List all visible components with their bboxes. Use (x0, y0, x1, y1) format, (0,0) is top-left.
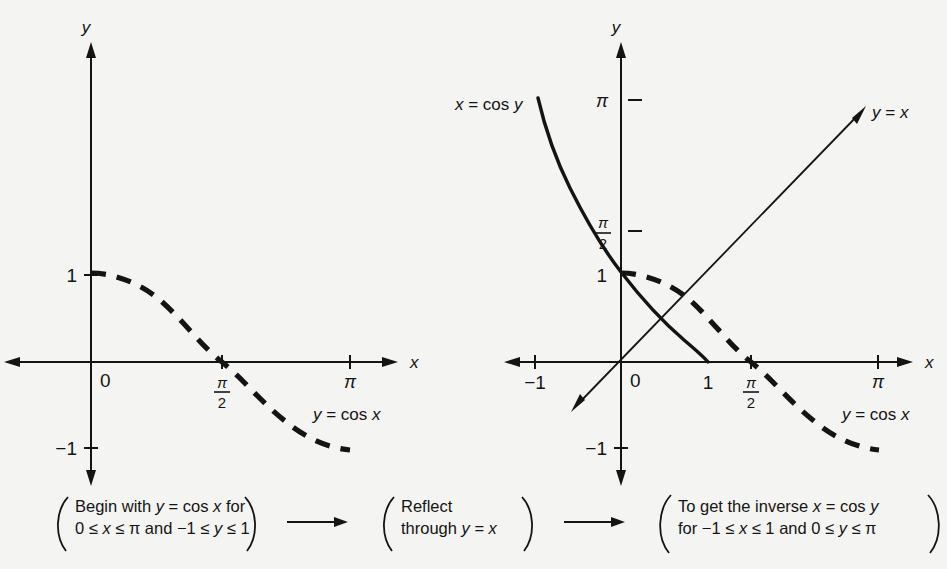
right-ytick-pi-label: π (596, 91, 609, 111)
flow-arrow-2-head (611, 517, 625, 527)
right-x-axis-right-arrowhead (897, 357, 913, 367)
right-inverse-cosine-label: x = cos y (454, 95, 524, 114)
cb-l2-p2: ≤ π and −1 ≤ (111, 519, 214, 537)
right-identity-line (571, 106, 866, 412)
left-y-axis-label: y (81, 18, 92, 37)
left-x-axis-label: x (409, 353, 419, 372)
right-xtick-1-label: 1 (703, 372, 714, 393)
left-panel: y x 0 1 −1 π 2 π y = cos x (4, 18, 419, 486)
cb-l2-p4: ≤ 1 (222, 519, 249, 537)
left-y-axis-up-arrowhead (86, 42, 96, 58)
left-ytick-1-label: 1 (66, 265, 77, 286)
cb-l1-p4: for (221, 497, 245, 515)
cr-l2-p2: = (470, 519, 489, 537)
left-origin-label: 0 (100, 370, 111, 391)
left-xtick-pi-label: π (344, 372, 357, 392)
left-cosine-label-rhs: x (371, 405, 381, 424)
caption-begin-line1: Begin with y = cos x for (75, 497, 246, 515)
cb-l1-p2: = cos (164, 497, 213, 515)
right-x-axis-left-arrowhead (504, 357, 520, 367)
ci-l1-p0: To get the inverse (678, 497, 813, 515)
right-ytick-halfpi-numerator: π (598, 214, 609, 231)
caption-reflect: Reflect through y = x (384, 497, 532, 551)
caption-reflect-left-paren (384, 497, 394, 551)
caption-inverse-right-paren (928, 495, 939, 553)
caption-inverse-left-paren (660, 495, 671, 553)
inverse-label-lhs: x (454, 95, 464, 114)
right-y-axis-down-arrowhead (616, 470, 626, 486)
inverse-cosine-figure: y x 0 1 −1 π 2 π y = cos x (0, 0, 947, 569)
cr-l2-p3: x (488, 519, 498, 537)
ci-l1-p2: = cos (821, 497, 870, 515)
right-origin-label: 0 (630, 370, 641, 391)
left-x-axis (4, 357, 398, 367)
flow-arrow-2 (564, 517, 625, 527)
right-inverse-cosine-curve (538, 98, 708, 362)
right-xtick-neg1-label: −1 (524, 372, 546, 393)
caption-inverse-line2: for −1 ≤ x ≤ 1 and 0 ≤ y ≤ π (678, 519, 877, 537)
right-cosine-curve-label: y = cos x (841, 405, 910, 424)
right-y-axis-up-arrowhead (616, 42, 626, 58)
inverse-label-eq: = cos (464, 95, 515, 114)
ci-l2-p0: for −1 ≤ (678, 519, 739, 537)
identity-label-rhs: x (899, 103, 909, 122)
right-ytick-1-label: 1 (596, 265, 607, 286)
caption-reflect-line2: through y = x (401, 519, 498, 537)
right-y-axis (616, 42, 626, 486)
figure-canvas: y x 0 1 −1 π 2 π y = cos x (0, 0, 947, 569)
caption-begin-left-paren (58, 497, 68, 551)
caption-begin-line2: 0 ≤ x ≤ π and −1 ≤ y ≤ 1 (75, 519, 250, 537)
ci-l2-p4: ≤ π (847, 519, 877, 537)
right-xtick-halfpi-numerator: π (746, 374, 757, 391)
identity-line-upper-arrowhead (852, 106, 866, 124)
identity-label-eq: = (881, 103, 900, 122)
right-xtick-halfpi-denominator: 2 (747, 394, 755, 411)
right-cosine-label-eq: = cos (851, 405, 902, 424)
left-xtick-halfpi-numerator: π (217, 374, 228, 391)
identity-line-lower-arrowhead (571, 394, 585, 412)
inverse-label-rhs: y (513, 95, 524, 114)
left-xtick-halfpi-denominator: 2 (218, 394, 226, 411)
left-cosine-label-eq: = cos (322, 405, 373, 424)
right-ytick-neg1-label: −1 (585, 438, 607, 459)
cr-l2-p0: through (401, 519, 462, 537)
right-panel: y x 0 π π 2 1 −1 −1 1 π (454, 18, 934, 486)
left-x-axis-right-arrowhead (382, 357, 398, 367)
right-x-axis-label: x (924, 353, 934, 372)
left-ytick-neg1-label: −1 (55, 438, 77, 459)
right-identity-line-label: y = x (871, 103, 909, 122)
caption-inverse: To get the inverse x = cos y for −1 ≤ x … (660, 495, 939, 553)
flow-arrow-1 (287, 517, 348, 527)
cb-l1-p0: Begin with (75, 497, 156, 515)
caption-reflect-right-paren (522, 497, 532, 551)
right-cosine-label-rhs: x (900, 405, 910, 424)
flow-arrow-1-head (334, 517, 348, 527)
left-cosine-curve-label: y = cos x (312, 405, 381, 424)
caption-inverse-line1: To get the inverse x = cos y (678, 497, 880, 515)
caption-begin: Begin with y = cos x for 0 ≤ x ≤ π and −… (58, 497, 255, 551)
ci-l2-p2: ≤ 1 and 0 ≤ (747, 519, 839, 537)
left-x-axis-left-arrowhead (4, 357, 20, 367)
right-xtick-pi-label: π (872, 372, 885, 392)
right-y-axis-label: y (611, 18, 622, 37)
caption-reflect-line1: Reflect (401, 497, 453, 515)
ci-l1-p3: y (869, 497, 880, 515)
cb-l2-p0: 0 ≤ (75, 519, 102, 537)
left-y-axis (86, 42, 96, 486)
left-y-axis-down-arrowhead (86, 470, 96, 486)
cr-l1-p0: Reflect (401, 497, 453, 515)
